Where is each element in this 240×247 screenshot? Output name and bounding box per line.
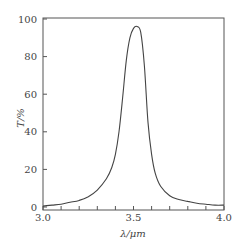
y-tick-label: 60 <box>24 89 37 100</box>
x-axis-label: λ/μm <box>119 228 146 239</box>
y-tick-label: 40 <box>24 126 37 137</box>
x-axis-ticks: 3.03.54.0 <box>35 206 232 223</box>
y-tick-label: 100 <box>18 14 37 25</box>
x-tick-label: 3.5 <box>126 212 142 223</box>
plot-frame <box>43 18 224 210</box>
y-axis-label: T/% <box>15 108 26 128</box>
y-tick-label: 80 <box>24 51 37 62</box>
x-tick-label: 3.0 <box>35 212 51 223</box>
x-tick-label: 4.0 <box>216 212 232 223</box>
y-tick-label: 0 <box>31 202 37 213</box>
transmittance-curve <box>43 26 224 206</box>
transmittance-chart: 020406080100 3.03.54.0 T/% λ/μm <box>0 0 240 247</box>
y-tick-label: 20 <box>24 164 37 175</box>
